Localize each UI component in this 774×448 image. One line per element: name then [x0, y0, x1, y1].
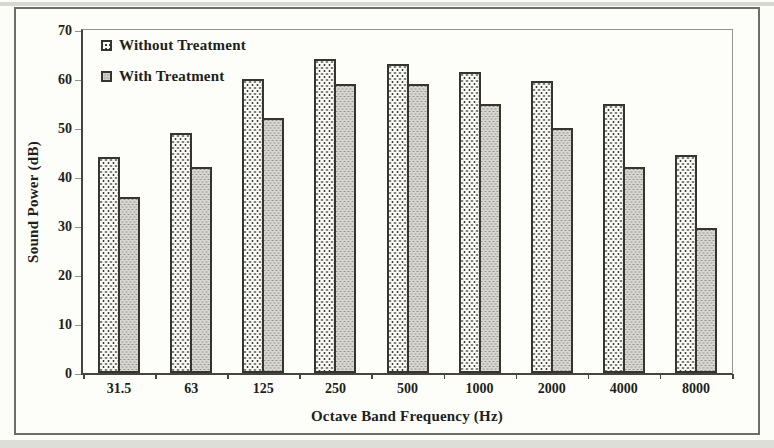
bar-without-treatment-125 [242, 79, 264, 373]
x-tick-mark [83, 374, 85, 379]
y-tick-label-60: 60 [16, 72, 72, 88]
x-tick-label-1000: 1000 [448, 381, 512, 397]
legend-label-with-treatment: With Treatment [119, 68, 224, 85]
y-tick-label-10: 10 [16, 317, 72, 333]
bar-without-treatment-250 [314, 59, 336, 373]
x-axis-title: Octave Band Frequency (Hz) [81, 408, 733, 425]
x-tick-mark [732, 374, 734, 379]
x-tick-mark [660, 374, 662, 379]
bar-without-treatment-1000 [459, 72, 481, 373]
x-tick-label-125: 125 [231, 381, 295, 397]
bar-without-treatment-4000 [603, 104, 625, 374]
legend: Without Treatment With Treatment [101, 37, 246, 85]
x-tick-mark [588, 374, 590, 379]
scan-artifact-top [0, 2, 774, 6]
bar-with-treatment-1000 [479, 104, 501, 374]
y-tick-label-50: 50 [16, 121, 72, 137]
y-tick-label-40: 40 [16, 170, 72, 186]
bar-with-treatment-250 [334, 84, 356, 373]
bar-with-treatment-2000 [551, 128, 573, 373]
y-tick-mark [75, 276, 81, 278]
bar-with-treatment-125 [262, 118, 284, 373]
bar-without-treatment-8000 [675, 155, 697, 373]
y-tick-mark [75, 178, 81, 180]
bar-without-treatment-2000 [531, 81, 553, 373]
y-tick-mark [75, 227, 81, 229]
x-tick-label-8000: 8000 [664, 381, 728, 397]
y-tick-mark [75, 374, 81, 376]
legend-label-without-treatment: Without Treatment [119, 37, 246, 54]
bar-with-treatment-31.5 [118, 197, 140, 373]
x-tick-label-250: 250 [303, 381, 367, 397]
bar-with-treatment-500 [407, 84, 429, 373]
x-tick-label-500: 500 [376, 381, 440, 397]
x-tick-mark [299, 374, 301, 379]
bar-without-treatment-63 [170, 133, 192, 373]
legend-swatch-without-treatment-icon [101, 40, 112, 51]
scan-artifact-bottom [0, 440, 774, 448]
bar-with-treatment-8000 [695, 228, 717, 373]
legend-swatch-with-treatment-icon [101, 71, 112, 82]
x-tick-label-31.5: 31.5 [87, 381, 151, 397]
scanned-chart-figure: Sound Power (dB) 01020304050607031.56312… [0, 0, 774, 448]
bar-without-treatment-31.5 [98, 157, 120, 373]
x-tick-mark [444, 374, 446, 379]
legend-item-with-treatment: With Treatment [101, 68, 246, 85]
chart-frame: Sound Power (dB) 01020304050607031.56312… [14, 7, 760, 435]
y-tick-mark [75, 80, 81, 82]
x-tick-label-63: 63 [159, 381, 223, 397]
bar-with-treatment-63 [190, 167, 212, 373]
x-tick-label-2000: 2000 [520, 381, 584, 397]
legend-item-without-treatment: Without Treatment [101, 37, 246, 54]
y-tick-label-30: 30 [16, 219, 72, 235]
y-tick-label-20: 20 [16, 268, 72, 284]
x-tick-mark [155, 374, 157, 379]
x-tick-label-4000: 4000 [592, 381, 656, 397]
x-tick-mark [227, 374, 229, 379]
y-tick-mark [75, 31, 81, 33]
bar-without-treatment-500 [387, 64, 409, 373]
x-tick-mark [516, 374, 518, 379]
bar-with-treatment-4000 [623, 167, 645, 373]
x-tick-mark [371, 374, 373, 379]
y-tick-mark [75, 129, 81, 131]
y-tick-label-0: 0 [16, 366, 72, 382]
y-tick-label-70: 70 [16, 23, 72, 39]
y-tick-mark [75, 325, 81, 327]
